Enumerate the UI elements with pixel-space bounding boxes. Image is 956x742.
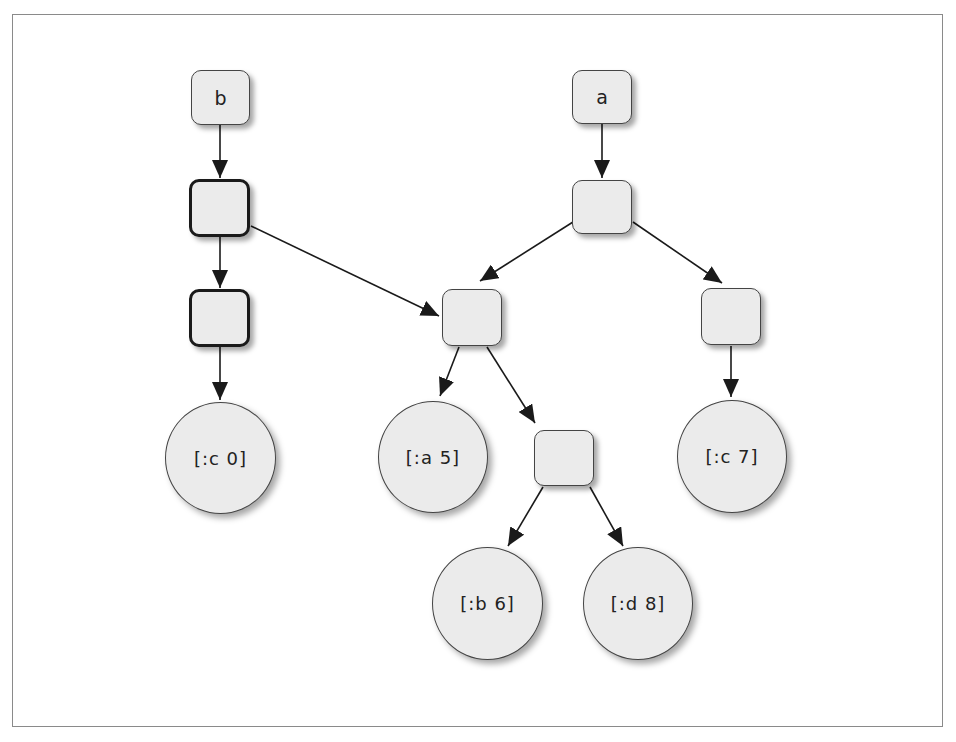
root-node-b: b — [191, 70, 250, 125]
new-path-node-1 — [189, 179, 250, 237]
root-node-a: a — [572, 70, 632, 124]
tree-node-right — [701, 288, 761, 345]
leaf-label-a-5: [:a 5] — [406, 447, 460, 468]
leaf-label-b-6: [:b 6] — [460, 593, 515, 614]
edge-n-to-b6 — [508, 487, 543, 546]
edge-m-to-a5 — [440, 347, 459, 396]
tree-node-a-root — [572, 180, 632, 234]
edge-a1-to-m — [480, 222, 573, 281]
edge-n-to-d8 — [590, 487, 623, 546]
shared-node — [442, 289, 502, 346]
leaf-label-d-8: [:d 8] — [611, 593, 666, 614]
root-label-b: b — [214, 87, 226, 109]
leaf-b-6: [:b 6] — [432, 547, 543, 660]
root-label-a: a — [596, 86, 608, 108]
leaf-label-c-7: [:c 7] — [705, 446, 758, 467]
leaf-c-7: [:c 7] — [677, 400, 787, 513]
new-path-node-2 — [189, 289, 250, 347]
leaf-d-8: [:d 8] — [583, 547, 693, 660]
tree-node-inner — [534, 430, 594, 486]
edge-m-to-n — [487, 347, 535, 423]
edge-b1-to-m — [251, 226, 439, 316]
edge-a1-to-r — [633, 222, 722, 283]
leaf-a-5: [:a 5] — [378, 401, 488, 513]
leaf-c-0: [:c 0] — [165, 402, 276, 514]
leaf-label-c-0: [:c 0] — [194, 448, 247, 469]
